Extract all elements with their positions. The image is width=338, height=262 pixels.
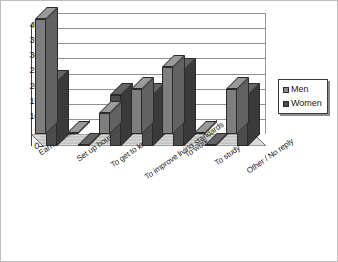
bar-face bbox=[162, 67, 173, 134]
bar-men bbox=[67, 133, 78, 135]
bar-women bbox=[205, 145, 216, 147]
bar-men bbox=[99, 113, 110, 134]
bar-group bbox=[127, 13, 159, 146]
bar-face bbox=[131, 89, 142, 134]
bar-face bbox=[99, 113, 110, 134]
chart-legend: Men Women bbox=[278, 79, 328, 114]
legend-swatch-men-icon bbox=[283, 87, 289, 93]
bar-men bbox=[131, 89, 142, 134]
bar-side bbox=[57, 70, 69, 146]
legend-label-women: Women bbox=[291, 98, 322, 109]
bar-men bbox=[226, 89, 237, 134]
bar-face bbox=[226, 89, 237, 134]
legend-swatch-women-icon bbox=[283, 101, 289, 107]
bar-face bbox=[35, 19, 46, 134]
bar-group bbox=[158, 13, 190, 146]
bar-group bbox=[95, 13, 127, 146]
legend-item: Women bbox=[283, 98, 322, 109]
bar-side bbox=[173, 55, 185, 134]
bar-men bbox=[35, 19, 46, 134]
x-axis-label: To study bbox=[213, 143, 242, 167]
bar-chart: 0510152025303540 Earn moneySet up houseT… bbox=[0, 0, 338, 262]
bar-women bbox=[78, 145, 89, 147]
plot-area: 0510152025303540 bbox=[31, 13, 266, 146]
legend-item: Men bbox=[283, 84, 322, 95]
legend-label-men: Men bbox=[291, 84, 309, 95]
bar-men bbox=[194, 133, 205, 135]
x-axis-labels: Earn moneySet up houseTo get to knowTo i… bbox=[31, 146, 331, 256]
bar-group bbox=[222, 13, 254, 146]
bar-side bbox=[46, 7, 58, 134]
bars-layer bbox=[31, 13, 266, 146]
bar-men bbox=[162, 67, 173, 134]
bar-group bbox=[31, 13, 63, 146]
